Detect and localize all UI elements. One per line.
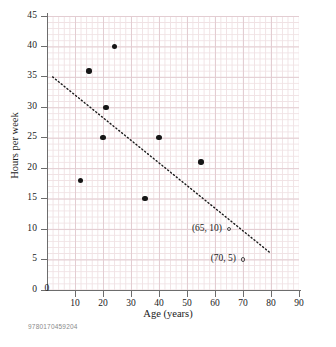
point-annotation-label: (70, 5) [183, 253, 236, 263]
trend-line-layer [0, 0, 336, 347]
data-point-open [241, 257, 245, 261]
trend-line [53, 77, 271, 254]
data-point [142, 196, 147, 201]
y-axis-title: Hours per week [9, 81, 20, 211]
data-point [198, 159, 203, 164]
data-point [103, 105, 108, 110]
data-point [112, 44, 117, 49]
footer-isbn-code: 9780170459204 [28, 323, 78, 330]
point-annotation-label: (65, 10) [169, 223, 222, 233]
scatter-plot-figure: 051015202530354045 0102030405060708090 (… [0, 0, 336, 347]
x-axis-title: Age (years) [0, 308, 336, 319]
data-point [86, 68, 91, 73]
